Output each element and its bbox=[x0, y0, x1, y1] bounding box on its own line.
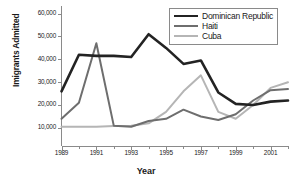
line-chart: Imigrants Admitted 10,00020,00030,00040,… bbox=[0, 0, 292, 182]
legend: Dominican RepublicHaitiCuba bbox=[169, 8, 278, 45]
legend-item: Cuba bbox=[174, 31, 273, 41]
legend-swatch bbox=[174, 35, 198, 37]
y-tick-label: 30,000 bbox=[20, 79, 56, 85]
legend-swatch bbox=[174, 25, 198, 27]
y-tick-label: 10,000 bbox=[20, 124, 56, 130]
y-tick-label: 20,000 bbox=[20, 101, 56, 107]
y-tick-label: 40,000 bbox=[20, 56, 56, 62]
y-axis-title: Imigrants Admitted bbox=[12, 0, 21, 110]
x-tick-label: 1993 bbox=[116, 150, 146, 156]
x-tick-label: 2001 bbox=[256, 150, 286, 156]
legend-label: Dominican Republic bbox=[202, 11, 273, 21]
y-tick-label: 50,000 bbox=[20, 33, 56, 39]
y-tick-label: 60,000 bbox=[20, 10, 56, 16]
x-tick-label: 1995 bbox=[151, 150, 181, 156]
legend-item: Haiti bbox=[174, 21, 273, 31]
legend-label: Cuba bbox=[202, 31, 221, 41]
x-tick-label: 1991 bbox=[81, 150, 111, 156]
x-tick-label: 1989 bbox=[47, 150, 77, 156]
x-tick-label: 1997 bbox=[186, 150, 216, 156]
series-lines bbox=[62, 34, 289, 127]
legend-item: Dominican Republic bbox=[174, 11, 273, 21]
x-axis-title: Year bbox=[0, 167, 292, 176]
x-tick-label: 1999 bbox=[221, 150, 251, 156]
legend-label: Haiti bbox=[202, 21, 218, 31]
legend-swatch bbox=[174, 15, 198, 17]
x-axis-tick-labels: 1989199119931995199719992001 bbox=[0, 146, 292, 160]
